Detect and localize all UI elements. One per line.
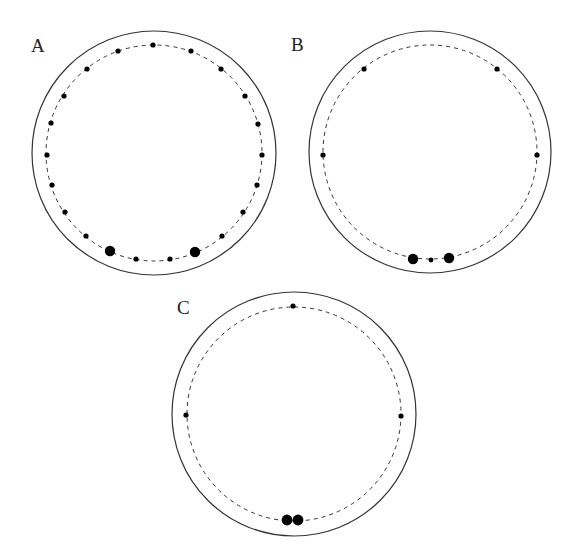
small-dot — [242, 93, 247, 98]
dot-group — [183, 303, 403, 525]
outer-ring — [32, 31, 276, 275]
dashed-ring — [323, 45, 537, 259]
small-dot — [218, 66, 223, 71]
panel-b: B — [291, 31, 551, 273]
dashed-ring — [46, 45, 262, 261]
panel-label-a: A — [31, 35, 45, 56]
small-dot — [183, 412, 188, 417]
panel-label-b: B — [291, 34, 304, 55]
large-dot — [282, 515, 293, 526]
small-dot — [398, 413, 403, 418]
small-dot — [48, 120, 53, 125]
small-dot — [429, 258, 434, 263]
panel-a: A — [31, 31, 276, 275]
outer-ring — [309, 31, 551, 273]
large-dot — [190, 247, 200, 257]
small-dot — [361, 66, 366, 71]
small-dot — [254, 182, 259, 187]
large-dot — [105, 246, 115, 256]
panel-c: C — [172, 292, 416, 536]
small-dot — [44, 152, 49, 157]
small-dot — [150, 42, 155, 47]
small-dot — [188, 48, 193, 53]
small-dot — [49, 182, 54, 187]
large-dot — [444, 253, 454, 263]
small-dot — [167, 256, 172, 261]
orbit-diagram: A B C — [0, 0, 579, 559]
small-dot — [320, 152, 325, 157]
large-dot — [408, 254, 418, 264]
small-dot — [84, 66, 89, 71]
dot-group — [320, 66, 539, 264]
panel-label-c: C — [177, 297, 190, 318]
outer-ring — [172, 292, 416, 536]
small-dot — [290, 303, 295, 308]
small-dot — [61, 93, 66, 98]
small-dot — [255, 121, 260, 126]
small-dot — [219, 233, 224, 238]
large-dot — [293, 515, 304, 526]
small-dot — [240, 209, 245, 214]
small-dot — [133, 256, 138, 261]
dashed-ring — [187, 307, 401, 521]
small-dot — [83, 233, 88, 238]
small-dot — [534, 152, 539, 157]
small-dot — [494, 66, 499, 71]
small-dot — [62, 209, 67, 214]
small-dot — [115, 48, 120, 53]
small-dot — [259, 152, 264, 157]
